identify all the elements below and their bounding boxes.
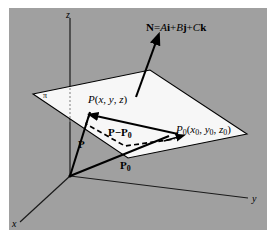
- vector-diff-second: P: [121, 126, 128, 138]
- vector-diff-second-subscript: 0: [128, 131, 132, 140]
- z-axis-label: z: [66, 10, 70, 20]
- point-p0-label: P0(x0, y0, z0): [176, 124, 231, 137]
- x-axis-label: x: [12, 219, 16, 229]
- coef-b: B: [176, 21, 183, 33]
- normal-symbol: N: [146, 21, 154, 33]
- figure-container: z y x π N=Ai+Bj+Ck P(x, y, z) P0(x0, y0,…: [0, 0, 278, 238]
- vector-p0-label: P0: [120, 160, 131, 173]
- origin-point: [68, 174, 71, 177]
- normal-vector-equation: N=Ai+Bj+Ck: [146, 22, 206, 33]
- point-p0-name: P: [176, 123, 183, 135]
- vector-diff-first: P: [108, 126, 115, 138]
- vector-p0-subscript: 0: [127, 164, 131, 173]
- coef-a: A: [160, 21, 167, 33]
- plane-pi-label: π: [43, 92, 47, 100]
- point-p-name: P: [88, 93, 95, 105]
- y-axis-label: y: [252, 194, 256, 204]
- vector-p-label: P: [78, 139, 85, 150]
- plane-normal-vector-diagram: [0, 0, 278, 238]
- point-p-paren-close: ): [123, 93, 127, 105]
- vector-p0-name: P: [120, 159, 127, 171]
- unit-k: k: [200, 21, 206, 33]
- vector-p-minus-p0-label: P−P0: [108, 127, 132, 140]
- point-p-label: P(x, y, z): [88, 94, 127, 105]
- point-p0-paren-close: ): [227, 123, 231, 135]
